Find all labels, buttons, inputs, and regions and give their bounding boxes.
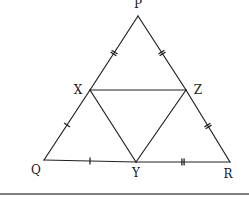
tick-mark-XQ: [64, 123, 70, 127]
segment-PZ: [138, 16, 186, 90]
equal-length-tick-marks: [64, 50, 211, 165]
segment-ZY: [136, 90, 186, 162]
segment-XY: [90, 90, 136, 162]
triangle-diagram: P X Z Q Y R: [0, 0, 249, 199]
label-P: P: [134, 0, 142, 11]
label-Q: Q: [31, 163, 41, 177]
segment-PX: [90, 16, 138, 90]
label-R: R: [223, 167, 233, 181]
label-X: X: [74, 83, 83, 97]
label-Z: Z: [194, 83, 202, 97]
segment-ZR: [186, 90, 230, 162]
label-Y: Y: [131, 166, 141, 180]
